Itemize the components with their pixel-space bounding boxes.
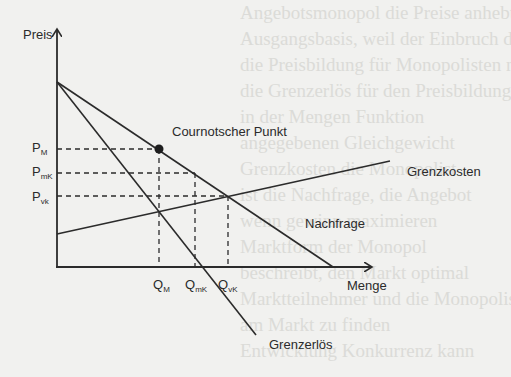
marginal-revenue-curve	[57, 82, 256, 335]
quantity-tick-qvk: QvK	[218, 277, 237, 294]
price-tick-pmk: PmK	[32, 164, 53, 181]
tick-sub: M	[163, 285, 170, 294]
tick-sub: mK	[195, 285, 207, 294]
marginal-cost-label: Grenzkosten	[407, 164, 481, 179]
tick-main: Q	[153, 277, 163, 292]
y-axis-label: Preis	[23, 27, 53, 42]
cournot-point-label: Cournotscher Punkt	[172, 124, 287, 139]
tick-main: P	[32, 140, 41, 155]
quantity-tick-qmk: QmK	[185, 277, 207, 294]
tick-main: P	[32, 189, 41, 204]
tick-main: Q	[185, 277, 195, 292]
price-tick-pvk: Pvk	[32, 189, 49, 206]
demand-label: Nachfrage	[305, 216, 365, 231]
price-tick-pm: PM	[32, 140, 47, 157]
x-axis-label: Menge	[347, 278, 387, 293]
tick-main: P	[32, 164, 41, 179]
cournot-diagram	[0, 0, 511, 377]
tick-sub: vK	[228, 285, 237, 294]
cournot-point-marker	[155, 145, 164, 154]
tick-sub: M	[41, 148, 48, 157]
tick-sub: mK	[41, 172, 53, 181]
tick-main: Q	[218, 277, 228, 292]
quantity-tick-qm: QM	[153, 277, 170, 294]
tick-sub: vk	[41, 197, 49, 206]
marginal-revenue-label: Grenzerlös	[269, 337, 333, 352]
